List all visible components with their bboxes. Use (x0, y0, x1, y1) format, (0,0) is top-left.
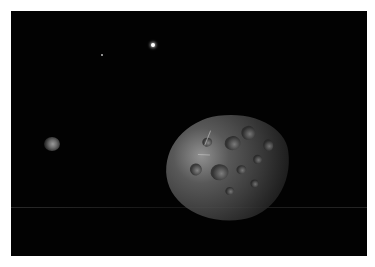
crater (209, 163, 229, 181)
crater (236, 165, 247, 175)
ray-streak (198, 154, 210, 155)
crater (224, 135, 242, 151)
distant-planet (44, 137, 60, 151)
asteroid (159, 107, 297, 229)
crater (240, 125, 256, 141)
crater (189, 163, 203, 177)
space-image (11, 11, 367, 256)
crater (225, 186, 235, 195)
faint-star (101, 54, 103, 56)
crater (262, 139, 274, 152)
crater (252, 154, 262, 164)
crater (250, 179, 259, 188)
bright-star (151, 43, 155, 47)
